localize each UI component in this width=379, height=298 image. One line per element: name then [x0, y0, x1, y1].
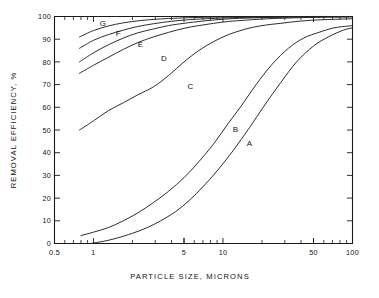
curve-label-D: D [161, 54, 167, 63]
x-tick-label: 10 [219, 248, 228, 257]
curve-label-A: A [247, 139, 253, 148]
y-tick-label: 40 [42, 148, 51, 157]
y-tick-label: 70 [42, 80, 51, 89]
y-tick-label: 60 [42, 103, 51, 112]
curve-label-C: C [187, 82, 193, 91]
y-tick-label: 20 [42, 194, 51, 203]
y-tick-label: 30 [42, 171, 51, 180]
removal-efficiency-chart: 0.5151050100 0102030405060708090100 ABCD… [0, 0, 379, 298]
curve-label-B: B [233, 125, 238, 134]
x-axis-title: PARTICLE SIZE, MICRONS [130, 272, 250, 281]
x-tick-label: 50 [309, 248, 318, 257]
x-tick-label: 100 [346, 248, 359, 257]
curve-label-F: F [116, 29, 121, 38]
x-tick-label: 1 [91, 248, 95, 257]
y-tick-label: 90 [42, 35, 51, 44]
y-tick-label: 0 [47, 239, 51, 248]
chart-figure: 0.5151050100 0102030405060708090100 ABCD… [0, 0, 379, 298]
x-tick-label: 5 [182, 248, 186, 257]
y-axis-title: REMOVAL EFFICIENCY, % [9, 72, 18, 189]
y-tick-label: 100 [38, 12, 51, 21]
y-tick-label: 10 [42, 216, 51, 225]
curve-label-G: G [100, 19, 106, 28]
x-tick-label: 0.5 [49, 248, 60, 257]
y-tick-label: 80 [42, 58, 51, 67]
curve-label-E: E [138, 40, 143, 49]
y-tick-label: 50 [42, 126, 51, 135]
